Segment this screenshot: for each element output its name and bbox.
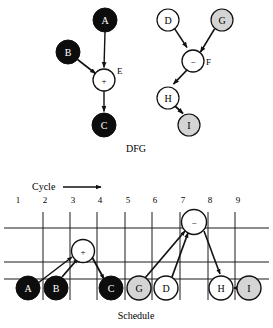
sched-node-circle-g (127, 276, 151, 300)
node-circle-b (56, 40, 80, 64)
node-circle-a (93, 8, 117, 32)
edge-d-to-f (175, 29, 188, 48)
sched-edge-f-to-h (204, 231, 220, 274)
sched-node-label-e-operator: + (80, 247, 85, 257)
sched-node-circle-i (237, 276, 261, 300)
sched-edge-e-to-c (92, 257, 104, 279)
cycle-number-5: 5 (126, 195, 131, 205)
cycle-number-8: 8 (208, 195, 213, 205)
sched-node-f-subtractor: − (182, 210, 207, 235)
dfg-node-i: I (178, 114, 200, 136)
cycle-text: Cycle (32, 181, 56, 192)
dfg-schedule-figure: A B + E C (0, 0, 273, 328)
node-circle-c (92, 113, 116, 137)
schedule-cycle-axis-label: Cycle (32, 181, 101, 192)
cycle-number-7: 7 (181, 195, 186, 205)
dfg-node-d: D (157, 9, 179, 31)
sched-node-circle-d (154, 276, 178, 300)
sched-node-d: D (154, 276, 178, 300)
node-circle-i (178, 114, 200, 136)
sched-node-circle-b (44, 276, 68, 300)
cycle-number-1: 1 (16, 195, 21, 205)
dfg-node-b: B (56, 40, 80, 64)
caption-dfg: DFG (126, 143, 146, 154)
figure-container: A B + E C (0, 0, 273, 328)
sched-node-circle-c (99, 276, 123, 300)
sched-node-b: B (44, 276, 68, 300)
sched-node-e-adder: + (72, 240, 95, 263)
node-label-e-operator: + (101, 76, 106, 86)
dfg-node-h: H (157, 87, 179, 109)
edge-h-to-i (175, 106, 183, 114)
sched-node-a: A (16, 276, 40, 300)
sched-node-label-f-operator: − (191, 218, 196, 228)
cycle-number-4: 4 (98, 195, 103, 205)
dfg-node-f-subtractor: − F (182, 50, 211, 72)
edge-label-e: E (117, 66, 123, 76)
sched-node-h: H (209, 276, 233, 300)
sched-node-c: C (99, 276, 123, 300)
sched-node-g: G (127, 276, 151, 300)
sched-edge-g-to-f (145, 231, 185, 278)
dfg-left-tree: A B + E C (56, 8, 123, 137)
cycle-number-6: 6 (153, 195, 158, 205)
edge-a-to-e (104, 32, 105, 68)
dfg-right-tree: D G − F H I (157, 9, 233, 136)
sched-node-circle-a (16, 276, 40, 300)
edge-label-f: F (206, 57, 211, 67)
edge-b-to-e (78, 60, 96, 74)
cycle-number-2: 2 (43, 195, 48, 205)
node-circle-g (211, 9, 233, 31)
edge-f-to-h (174, 70, 188, 84)
schedule-nodes: A B + C G D − (16, 210, 261, 301)
sched-node-i: I (237, 276, 261, 300)
dfg-node-a: A (93, 8, 117, 32)
sched-node-circle-h (209, 276, 233, 300)
node-circle-d (157, 9, 179, 31)
cycle-number-9: 9 (236, 195, 241, 205)
dfg-node-g: G (211, 9, 233, 31)
schedule-cycle-numbers: 1 2 3 4 5 6 7 8 9 (16, 195, 241, 205)
cycle-number-3: 3 (71, 195, 76, 205)
dfg-node-e-adder: + E (93, 66, 123, 91)
node-label-f-operator: − (190, 57, 195, 67)
dfg-node-c: C (92, 113, 116, 137)
node-circle-h (157, 87, 179, 109)
caption-schedule: Schedule (118, 310, 155, 321)
edge-g-to-f (201, 29, 215, 52)
